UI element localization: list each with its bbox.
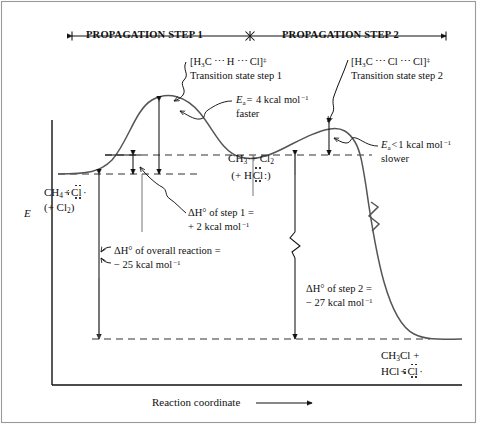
transition-state-2-caption: Transition state step 2 <box>351 70 443 82</box>
product-species-line-2: HCl + Cl · <box>381 365 423 378</box>
activation-energy-1-rate: faster <box>236 108 259 120</box>
transition-state-1-caption: Transition state step 1 <box>190 70 282 82</box>
activation-energy-1-label: Ea = 4 kcal mol −1 <box>236 94 309 107</box>
ts2-leader <box>328 60 348 122</box>
activation-energy-2-rate: slower <box>381 153 409 165</box>
delta-h-step-1-label: ΔH° of step 1 = <box>188 207 254 219</box>
reactant-species-line-1: CH4 + Cl · <box>44 186 87 201</box>
dh-overall-leader <box>101 247 111 263</box>
delta-h-step-1-value: + 2 kcal mol −1 <box>188 221 249 234</box>
y-axis-label: E <box>24 207 31 220</box>
ts1-leader <box>174 62 186 101</box>
delta-h-step-2-value: − 27 kcal mol −1 <box>306 297 373 310</box>
product-species-line-1: CH3Cl + <box>381 349 419 364</box>
propagation-step-1-header: PROPAGATION STEP 1 <box>86 29 203 41</box>
reactant-species-line-2: (+ Cl2) <box>44 201 74 216</box>
energy-curve <box>58 96 462 340</box>
propagation-step-2-header: PROPAGATION STEP 2 <box>282 29 399 41</box>
energy-diagram-figure: PROPAGATION STEP 1 PROPAGATION STEP 2 [H… <box>0 0 477 424</box>
ea1-leader <box>180 101 232 119</box>
delta-h-step-2-label: ΔH° of step 2 = <box>306 283 372 295</box>
dh-step2-measure-arrow <box>290 155 300 339</box>
transition-state-2-formula: [H3C ⋯ Cl ⋯ Cl]‡ <box>351 56 430 69</box>
x-axis-label: Reaction coordinate <box>152 396 240 409</box>
activation-energy-2-label: Ea < 1 kcal mol −1 <box>381 139 451 152</box>
delta-h-overall-value: − 25 kcal mol −1 <box>114 259 181 272</box>
transition-state-1-formula: [H3C ⋯ H ⋯ Cl]‡ <box>190 56 267 69</box>
delta-h-overall-label: ΔH° of overall reaction = <box>114 245 221 257</box>
intermediate-species-line-2: (+ H Cl :) <box>208 169 294 182</box>
dh-step1-measure-arrow <box>105 155 141 174</box>
intermediate-species-line-1: CH3·+ Cl2 <box>208 152 294 167</box>
